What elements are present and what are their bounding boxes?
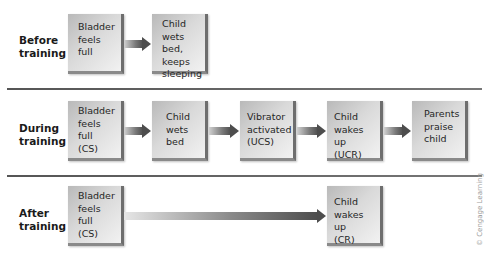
arrow-icon xyxy=(124,37,151,51)
box-text: Vibrator activated (UCS) xyxy=(247,111,291,149)
box-text: Bladder feels full xyxy=(78,21,119,59)
row-label-during-training: During training xyxy=(19,122,63,148)
arrow-icon xyxy=(124,124,151,138)
box-text: Child wakes up (UCR) xyxy=(334,111,378,161)
arrow-icon xyxy=(124,209,326,223)
box-vibrator-activated-ucs: Vibrator activated (UCS) xyxy=(240,101,296,161)
row-label-before-training: Before training xyxy=(19,34,63,60)
section-divider xyxy=(7,175,482,177)
box-child-wakes-up-ucr: Child wakes up (UCR) xyxy=(327,101,383,161)
box-bladder-feels-full-cs: Bladder feels full (CS) xyxy=(68,186,124,246)
arrow-icon xyxy=(297,124,326,138)
box-text: Child wets bed, keeps sleeping xyxy=(162,18,203,81)
box-text: Bladder feels full (CS) xyxy=(78,105,119,155)
row-label-after-training: After training xyxy=(19,207,63,233)
box-child-wakes-up-cr: Child wakes up (CR) xyxy=(327,186,383,246)
box-text: Child wets bed xyxy=(166,111,203,149)
box-text: Child wakes up (CR) xyxy=(334,196,378,246)
box-text: Parents praise child xyxy=(424,108,463,146)
arrow-icon xyxy=(384,124,411,138)
box-child-wets-bed-keeps-sleeping: Child wets bed, keeps sleeping xyxy=(152,14,208,74)
box-text: Bladder feels full (CS) xyxy=(78,190,119,240)
box-child-wets-bed: Child wets bed xyxy=(152,101,208,161)
box-parents-praise-child: Parents praise child xyxy=(412,101,468,161)
section-divider xyxy=(7,88,482,90)
box-bladder-feels-full: Bladder feels full xyxy=(68,14,124,74)
box-bladder-feels-full-cs: Bladder feels full (CS) xyxy=(68,101,124,161)
arrow-icon xyxy=(209,124,239,138)
copyright-credit: © Cengage Learning xyxy=(476,173,484,246)
